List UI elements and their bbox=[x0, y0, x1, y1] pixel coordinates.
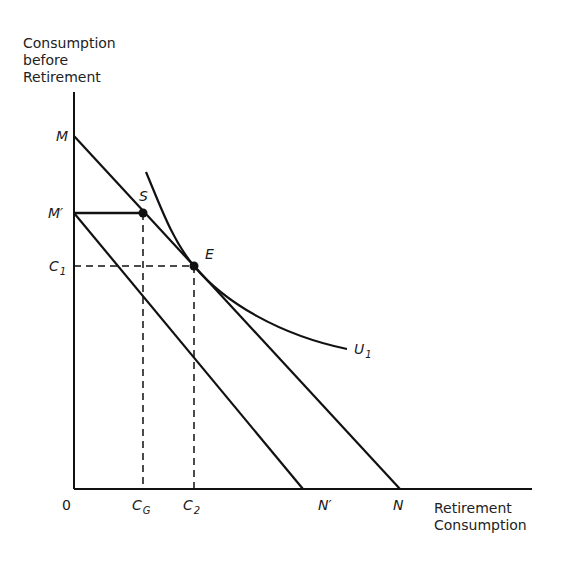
label-C1: C1 bbox=[49, 258, 66, 276]
point-S bbox=[139, 209, 148, 218]
budget-line-MN bbox=[74, 136, 400, 489]
budget-line-MprimeNprime bbox=[74, 213, 303, 489]
x-axis-title-line-2: Consumption bbox=[434, 517, 527, 534]
label-U1-main: U bbox=[354, 341, 364, 357]
label-U1: U1 bbox=[354, 341, 372, 359]
y-axis-title-line-3: Retirement bbox=[23, 69, 116, 86]
origin-label: 0 bbox=[62, 497, 71, 514]
label-CG-main: C bbox=[132, 497, 142, 513]
label-M-prime: M′ bbox=[48, 205, 63, 222]
point-E bbox=[190, 262, 199, 271]
label-S: S bbox=[139, 188, 148, 205]
x-axis-title: Retirement Consumption bbox=[434, 500, 527, 534]
label-C2-sub: 2 bbox=[194, 505, 200, 516]
x-axis-title-line-1: Retirement bbox=[434, 500, 527, 517]
y-axis-title-line-2: before bbox=[23, 52, 116, 69]
y-axis-title: Consumption before Retirement bbox=[23, 35, 116, 86]
label-CG-sub: G bbox=[143, 505, 151, 516]
label-M: M bbox=[56, 128, 68, 145]
label-U1-sub: 1 bbox=[365, 349, 371, 360]
label-C1-sub: 1 bbox=[60, 266, 66, 277]
label-C2: C2 bbox=[183, 497, 200, 515]
label-C2-main: C bbox=[183, 497, 193, 513]
label-CG: CG bbox=[132, 497, 151, 515]
label-C1-main: C bbox=[49, 258, 59, 274]
label-N-prime: N′ bbox=[318, 497, 332, 514]
y-axis-title-line-1: Consumption bbox=[23, 35, 116, 52]
label-N: N bbox=[393, 497, 403, 514]
label-E: E bbox=[205, 246, 214, 263]
